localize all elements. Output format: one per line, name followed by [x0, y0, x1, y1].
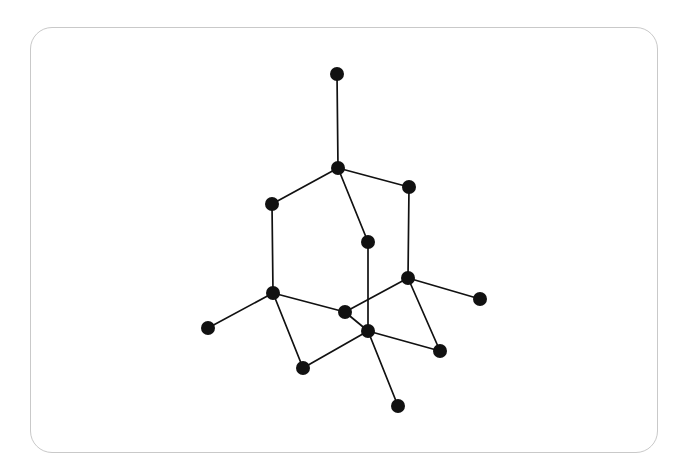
- graph-edge: [338, 168, 368, 242]
- graph-node: [473, 292, 487, 306]
- graph-node: [338, 305, 352, 319]
- graph-edge: [345, 278, 408, 312]
- graph-node: [401, 271, 415, 285]
- figure-canvas: [0, 0, 675, 474]
- graph-diagram: [0, 0, 675, 474]
- graph-edge: [338, 168, 409, 187]
- graph-edge: [368, 331, 398, 406]
- graph-node: [296, 361, 310, 375]
- graph-node-layer: [201, 67, 487, 413]
- graph-edge: [303, 331, 368, 368]
- graph-edge: [408, 278, 480, 299]
- graph-node: [361, 235, 375, 249]
- graph-node: [391, 399, 405, 413]
- graph-edge: [368, 331, 440, 351]
- graph-node: [331, 161, 345, 175]
- graph-node: [433, 344, 447, 358]
- graph-edge: [208, 293, 273, 328]
- graph-edge: [272, 168, 338, 204]
- graph-edge: [273, 293, 303, 368]
- graph-node: [330, 67, 344, 81]
- graph-node: [265, 197, 279, 211]
- graph-edge: [408, 187, 409, 278]
- graph-node: [201, 321, 215, 335]
- graph-edge: [273, 293, 345, 312]
- graph-node: [402, 180, 416, 194]
- graph-edge: [408, 278, 440, 351]
- graph-node: [361, 324, 375, 338]
- graph-node: [266, 286, 280, 300]
- graph-edge: [272, 204, 273, 293]
- graph-edge: [337, 74, 338, 168]
